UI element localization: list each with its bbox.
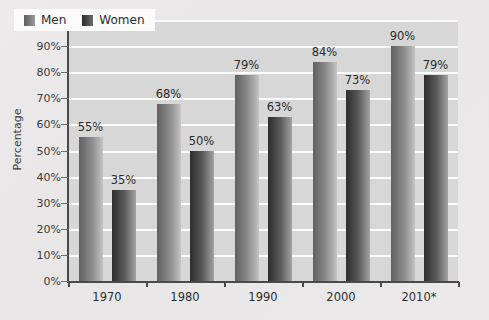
bar-men-1970 — [79, 137, 103, 281]
bar-women-2000 — [346, 90, 370, 281]
bar-value-label: 68% — [139, 89, 199, 101]
bar-men-2000 — [313, 62, 337, 281]
bar-men-1980 — [157, 104, 181, 281]
y-axis-tick — [61, 72, 68, 73]
y-axis-tick — [61, 255, 68, 256]
legend-label-men: Men — [41, 14, 66, 26]
bar-value-label: 35% — [94, 175, 154, 187]
y-axis-tick-label: 50% — [0, 146, 61, 157]
y-axis-tick-label: 70% — [0, 93, 61, 104]
x-axis-line — [67, 281, 459, 283]
y-axis-title: Percentage — [11, 95, 24, 185]
bar-women-1970 — [112, 190, 136, 281]
x-axis-tick — [380, 282, 382, 287]
bar-value-label: 73% — [328, 75, 388, 87]
chart-legend: Men Women — [14, 9, 155, 31]
x-axis-tick — [146, 282, 148, 287]
x-axis-tick-label: 2000 — [301, 292, 381, 304]
legend-item-men: Men — [24, 14, 66, 26]
y-axis-tick-label: 30% — [0, 198, 61, 209]
bar-women-2010 — [424, 75, 448, 281]
chart-screenshot: 100%90%80%70%60%50%40%30%20%10%0% 197019… — [0, 0, 489, 320]
bar-women-1990 — [268, 117, 292, 281]
y-axis-tick — [61, 203, 68, 204]
y-axis-tick — [61, 281, 68, 282]
legend-item-women: Women — [82, 14, 144, 26]
legend-swatch-men-icon — [24, 15, 35, 26]
bar-men-2010 — [391, 46, 415, 281]
bar-value-label: 84% — [295, 47, 355, 59]
bar-value-label: 79% — [217, 60, 277, 72]
x-axis-tick-label: 1970 — [67, 292, 147, 304]
y-axis-tick-label: 40% — [0, 172, 61, 183]
x-axis-tick — [458, 282, 460, 287]
y-axis-tick — [61, 98, 68, 99]
y-axis-tick-label: 0% — [0, 276, 61, 287]
x-axis-tick — [224, 282, 226, 287]
y-axis-tick — [61, 46, 68, 47]
y-axis-tick — [61, 151, 68, 152]
y-axis-tick — [61, 177, 68, 178]
x-axis-tick — [302, 282, 304, 287]
bar-value-label: 63% — [250, 102, 310, 114]
bar-value-label: 79% — [406, 60, 466, 72]
x-axis-tick — [68, 282, 70, 287]
legend-swatch-women-icon — [82, 15, 93, 26]
y-axis-tick-label: 90% — [0, 41, 61, 52]
bar-value-label: 50% — [172, 136, 232, 148]
legend-label-women: Women — [99, 14, 144, 26]
x-axis-tick-label: 1980 — [145, 292, 225, 304]
bar-value-label: 90% — [373, 31, 433, 43]
bar-value-label: 55% — [61, 122, 121, 134]
x-axis-tick-label: 2010* — [379, 292, 459, 304]
y-axis-tick-label: 60% — [0, 119, 61, 130]
bar-women-1980 — [190, 151, 214, 282]
x-axis-tick-label: 1990 — [223, 292, 303, 304]
y-axis-tick-label: 20% — [0, 224, 61, 235]
y-axis-tick-label: 80% — [0, 67, 61, 78]
y-axis-tick-label: 10% — [0, 250, 61, 261]
y-axis-tick — [61, 229, 68, 230]
